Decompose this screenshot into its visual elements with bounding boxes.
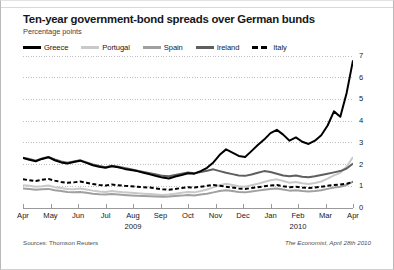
legend-label-ireland: Ireland xyxy=(217,43,240,52)
y-tick-label-7: 7 xyxy=(359,51,371,60)
x-axis-tick-11 xyxy=(326,204,327,208)
x-tick-label-feb-10: Feb xyxy=(284,211,312,220)
x-tick-label-mar-11: Mar xyxy=(312,211,340,220)
x-axis-tick-12 xyxy=(353,204,354,208)
y-tick-label-4: 4 xyxy=(359,116,371,125)
x-tick-label-dec-8: Dec xyxy=(229,211,257,220)
y-tick-label-2: 2 xyxy=(359,160,371,169)
legend-swatch-portugal xyxy=(81,46,99,49)
x-tick-label-apr-0: Apr xyxy=(9,211,37,220)
x-axis-line xyxy=(23,208,353,209)
legend-item-ireland[interactable]: Ireland xyxy=(196,43,240,52)
y-tick-label-3: 3 xyxy=(359,138,371,147)
x-axis-tick-9 xyxy=(271,204,272,208)
source-note: Sources: Thomson Reuters xyxy=(23,239,98,246)
x-axis-tick-5 xyxy=(161,204,162,208)
legend-item-greece[interactable]: Greece xyxy=(23,43,68,52)
x-axis-tick-6 xyxy=(188,204,189,208)
legend-swatch-spain xyxy=(143,46,161,49)
x-tick-label-nov-7: Nov xyxy=(202,211,230,220)
plot-area xyxy=(23,56,353,208)
x-axis-year-label-2010: 2010 xyxy=(282,222,314,231)
x-tick-label-apr-12: Apr xyxy=(339,211,367,220)
x-tick-label-sep-5: Sep xyxy=(147,211,175,220)
x-tick-label-oct-6: Oct xyxy=(174,211,202,220)
y-tick-label-5: 5 xyxy=(359,94,371,103)
credit-note: The Economist, April 28th 2010 xyxy=(285,239,371,246)
legend-label-spain: Spain xyxy=(164,43,183,52)
x-axis-tick-0 xyxy=(23,204,24,208)
x-tick-label-jul-3: Jul xyxy=(92,211,120,220)
x-axis-tick-3 xyxy=(106,204,107,208)
legend-label-portugal: Portugal xyxy=(102,43,129,52)
chart-legend: GreecePortugalSpainIrelandItaly xyxy=(23,43,300,52)
legend-label-greece: Greece xyxy=(44,43,68,52)
legend-item-spain[interactable]: Spain xyxy=(143,43,183,52)
x-axis-tick-7 xyxy=(216,204,217,208)
x-tick-label-jan-9: Jan xyxy=(257,211,285,220)
legend-swatch-greece xyxy=(23,46,41,49)
x-tick-label-aug-4: Aug xyxy=(119,211,147,220)
chart-title: Ten-year government-bond spreads over Ge… xyxy=(23,13,315,25)
chart-subtitle: Percentage points xyxy=(23,27,82,36)
x-tick-label-may-1: May xyxy=(37,211,65,220)
legend-swatch-ireland xyxy=(196,46,214,49)
plot-svg xyxy=(23,56,353,208)
x-axis-tick-2 xyxy=(78,204,79,208)
legend-item-portugal[interactable]: Portugal xyxy=(81,43,129,52)
x-axis-tick-4 xyxy=(133,204,134,208)
x-axis-tick-1 xyxy=(51,204,52,208)
chart-figure: Ten-year government-bond spreads over Ge… xyxy=(0,0,394,270)
top-rule xyxy=(1,7,394,8)
x-axis-tick-10 xyxy=(298,204,299,208)
legend-label-italy: Italy xyxy=(273,43,286,52)
y-tick-label-1: 1 xyxy=(359,181,371,190)
y-tick-label-6: 6 xyxy=(359,73,371,82)
x-axis-year-label-2009: 2009 xyxy=(117,222,149,231)
legend-item-italy[interactable]: Italy xyxy=(252,43,286,52)
x-axis-tick-8 xyxy=(243,204,244,208)
x-tick-label-jun-2: Jun xyxy=(64,211,92,220)
legend-swatch-italy xyxy=(252,46,270,49)
